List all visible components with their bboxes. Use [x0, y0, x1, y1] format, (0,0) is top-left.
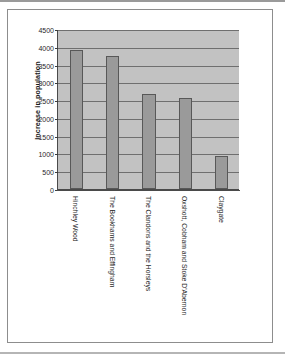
x-label-slot: Claygate — [203, 192, 239, 342]
bar — [142, 94, 155, 189]
y-tick-label: 3000 — [24, 80, 54, 87]
x-tick-label: Claygate — [217, 196, 224, 223]
bar — [215, 156, 228, 189]
plot-area — [57, 30, 239, 190]
bar — [179, 98, 192, 189]
bars-layer — [58, 30, 239, 189]
bar — [70, 50, 83, 189]
bar-chart: Increase in population 05001000150020002… — [8, 10, 274, 344]
y-tick-label: 4500 — [24, 27, 54, 34]
y-tick-label: 2000 — [24, 115, 54, 122]
x-label-slot: Hinchley Wood — [57, 192, 93, 342]
x-tick-label: The Clandons and the Horsleys — [144, 196, 151, 291]
x-axis-line — [57, 190, 240, 191]
scan-edge-top — [0, 0, 285, 2]
y-tick-label: 1500 — [24, 133, 54, 140]
x-tick-label: Hinchley Wood — [72, 196, 79, 242]
x-label-slot: The Clandons and the Horsleys — [130, 192, 166, 342]
x-label-slot: The Bookhams and Effingham — [93, 192, 129, 342]
figure-frame: Increase in population 05001000150020002… — [7, 9, 273, 343]
bar — [106, 56, 119, 189]
y-tick-label: 4000 — [24, 44, 54, 51]
y-tick-label: 0 — [24, 187, 54, 194]
y-tick-label: 3500 — [24, 62, 54, 69]
y-tick-label: 2500 — [24, 98, 54, 105]
y-tick-label: 1000 — [24, 151, 54, 158]
y-axis-tick-labels: 050010001500200025003000350040004500 — [24, 30, 54, 190]
x-tick-label: Oxshott, Cobham and Stoke D'Abernon — [181, 196, 188, 315]
x-axis-category-labels: Hinchley WoodThe Bookhams and EffinghamT… — [57, 192, 239, 342]
x-tick-label: The Bookhams and Effingham — [108, 196, 115, 287]
x-label-slot: Oxshott, Cobham and Stoke D'Abernon — [166, 192, 202, 342]
y-tick-label: 500 — [24, 169, 54, 176]
